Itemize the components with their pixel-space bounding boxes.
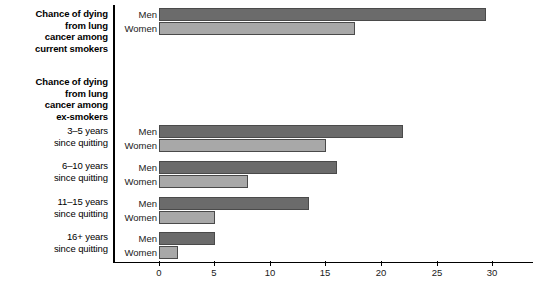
label-line: from lung [0, 20, 108, 32]
label-line: current smokers [0, 43, 108, 55]
x-tick-30 [492, 261, 493, 266]
series-label-women: Women [124, 139, 159, 152]
label-line: since quitting [0, 137, 108, 149]
label-3-5-years: 3–5 years since quitting [0, 125, 108, 148]
bar-women[interactable] [159, 175, 248, 188]
x-tick-label-10: 10 [265, 267, 276, 278]
label-line: 3–5 years [0, 125, 108, 137]
category-label-column: Chance of dying from lung cancer among c… [0, 0, 108, 294]
bar-women[interactable] [159, 211, 215, 224]
bar-women[interactable] [159, 22, 355, 35]
label-6-10-years: 6–10 years since quitting [0, 160, 108, 183]
series-label-women: Women [124, 246, 159, 259]
label-11-15-years: 11–15 years since quitting [0, 196, 108, 219]
bar-chart: Chance of dying from lung cancer among c… [0, 0, 545, 294]
label-line: 6–10 years [0, 160, 108, 172]
x-axis-line [113, 262, 533, 264]
series-label-men: Men [139, 161, 159, 174]
series-label-men: Men [139, 197, 159, 210]
bar-men[interactable] [159, 8, 486, 21]
label-line: 11–15 years [0, 196, 108, 208]
series-label-women: Women [124, 175, 159, 188]
x-tick-label-5: 5 [211, 267, 216, 278]
x-tick-label-30: 30 [487, 267, 498, 278]
x-tick-10 [270, 261, 271, 266]
bar-women[interactable] [159, 246, 178, 259]
x-tick-20 [381, 261, 382, 266]
label-ex-smokers: Chance of dying from lung cancer among e… [0, 76, 108, 122]
label-16-plus-years: 16+ years since quitting [0, 231, 108, 254]
label-line: Chance of dying [0, 76, 108, 88]
series-label-men: Men [139, 232, 159, 245]
label-line: since quitting [0, 243, 108, 255]
label-line: 16+ years [0, 231, 108, 243]
x-tick-15 [325, 261, 326, 266]
x-tick-label-25: 25 [432, 267, 443, 278]
label-line: from lung [0, 88, 108, 100]
label-line: since quitting [0, 172, 108, 184]
plot-area: Men Women Men Women [113, 5, 545, 263]
x-tick-5 [214, 261, 215, 266]
label-line: cancer among [0, 31, 108, 43]
x-tick-0 [159, 261, 160, 266]
x-tick-label-20: 20 [376, 267, 387, 278]
series-label-men: Men [139, 125, 159, 138]
bar-women[interactable] [159, 139, 326, 152]
bar-men[interactable] [159, 232, 215, 245]
label-line: ex-smokers [0, 111, 108, 123]
bar-men[interactable] [159, 161, 337, 174]
label-current-smokers: Chance of dying from lung cancer among c… [0, 8, 108, 54]
label-line: cancer among [0, 99, 108, 111]
y-axis-line [113, 5, 115, 263]
x-tick-label-0: 0 [156, 267, 161, 278]
x-tick-label-15: 15 [320, 267, 331, 278]
bar-men[interactable] [159, 197, 309, 210]
label-line: since quitting [0, 208, 108, 220]
label-line: Chance of dying [0, 8, 108, 20]
series-label-women: Women [124, 22, 159, 35]
series-label-men: Men [139, 8, 159, 21]
series-label-women: Women [124, 211, 159, 224]
x-tick-25 [437, 261, 438, 266]
bar-men[interactable] [159, 125, 403, 138]
